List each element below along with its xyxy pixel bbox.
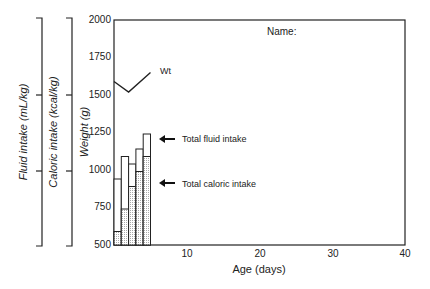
wt-label: Wt — [160, 66, 171, 76]
svg-text:1250: 1250 — [89, 126, 112, 137]
x-tick-labels: 10 20 30 40 — [181, 248, 411, 259]
svg-text:20: 20 — [254, 248, 266, 259]
svg-text:2000: 2000 — [89, 14, 112, 25]
intake-bars — [114, 134, 151, 245]
growth-chart: Fluid intake (mL/kg) Caloric intake (kca… — [0, 0, 430, 289]
svg-text:1750: 1750 — [89, 51, 112, 62]
svg-text:750: 750 — [94, 201, 111, 212]
caloric-intake-axis — [66, 18, 72, 246]
caloric-annotation: Total caloric intake — [182, 179, 256, 189]
x-axis-label: Age (days) — [232, 263, 285, 275]
svg-text:1500: 1500 — [89, 89, 112, 100]
svg-text:40: 40 — [399, 248, 411, 259]
caloric-axis-label: Caloric intake (kcal/kg) — [47, 76, 59, 188]
fluid-intake-axis — [36, 18, 42, 246]
svg-text:1000: 1000 — [89, 164, 112, 175]
weight-line — [114, 73, 151, 93]
svg-text:10: 10 — [181, 248, 193, 259]
svg-text:30: 30 — [327, 248, 339, 259]
y-tick-labels: 500 750 1000 1250 1500 1750 2000 — [89, 14, 112, 250]
fluid-arrow-icon — [159, 135, 175, 143]
caloric-arrow-icon — [159, 179, 175, 187]
fluid-annotation: Total fluid intake — [182, 134, 247, 144]
svg-text:500: 500 — [94, 239, 111, 250]
fluid-axis-label: Fluid intake (mL/kg) — [17, 83, 29, 180]
name-field-label: Name: — [267, 26, 296, 37]
plot-frame — [114, 20, 405, 245]
